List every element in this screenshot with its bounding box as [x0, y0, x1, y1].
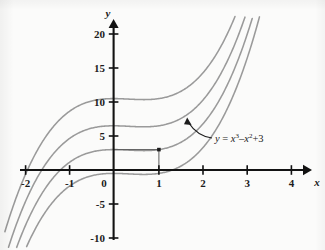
- y-axis-arrowhead: [109, 19, 119, 28]
- point-guides: [114, 150, 159, 170]
- x-tick-label-4: 4: [289, 177, 295, 189]
- annotation-arrowhead: [184, 118, 192, 125]
- x-tick-label--2: -2: [21, 177, 31, 189]
- y-tick-label-15: 15: [94, 62, 106, 74]
- x-tick-label-3: 3: [244, 177, 250, 189]
- y-tick-label-10: 10: [94, 96, 106, 108]
- x-axis-arrowhead: [303, 165, 312, 175]
- y-tick-label-20: 20: [94, 28, 106, 40]
- curve-equation-label: y = x3–x2+3: [214, 132, 264, 144]
- y-axis-label: y: [104, 7, 111, 19]
- marked-point-dot: [157, 148, 161, 152]
- plot-canvas: -2 -1 0 1 2 3 4 20 15 10 5 -5 -10 y x y …: [0, 0, 325, 250]
- x-tick-label-1: 1: [156, 177, 162, 189]
- equation-equals: =: [220, 133, 231, 144]
- curve-1: [5, 17, 235, 232]
- x-axis-label: x: [313, 176, 320, 188]
- y-tick-label--10: -10: [90, 232, 105, 244]
- equation-constant: 3: [258, 133, 263, 144]
- y-tick-label--5: -5: [96, 198, 106, 210]
- y-tick-label-5: 5: [100, 130, 106, 142]
- graph-figure: -2 -1 0 1 2 3 4 20 15 10 5 -5 -10 y x y …: [0, 0, 325, 250]
- annotation-arrow: [184, 118, 212, 139]
- x-tick-label-0: 0: [101, 177, 107, 189]
- curve-4: [27, 17, 260, 247]
- x-tick-label-2: 2: [200, 177, 206, 189]
- curve-family-render: [5, 17, 260, 248]
- x-tick-label--1: -1: [65, 177, 74, 189]
